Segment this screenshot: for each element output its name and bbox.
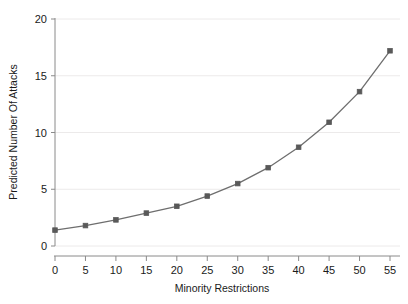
y-tick-group: 05101520	[35, 13, 55, 252]
series-line-group	[55, 51, 390, 230]
x-tick-label: 25	[201, 264, 213, 276]
y-axis-title: Predicted Number Of Attacks	[7, 64, 19, 199]
x-tick-label: 20	[171, 264, 183, 276]
x-tick-label: 30	[232, 264, 244, 276]
data-point-marker	[114, 218, 119, 223]
gridlines-group	[55, 19, 400, 246]
data-point-marker	[83, 223, 88, 228]
data-point-marker	[357, 89, 362, 94]
x-tick-label: 35	[262, 264, 274, 276]
y-tick-label: 10	[35, 127, 47, 139]
data-point-marker	[388, 48, 393, 53]
x-tick-label: 10	[110, 264, 122, 276]
y-tick-label: 0	[41, 240, 47, 252]
data-point-marker	[53, 228, 58, 233]
data-point-marker	[144, 211, 149, 216]
x-tick-label: 40	[293, 264, 305, 276]
x-tick-label: 45	[323, 264, 335, 276]
x-tick-label: 55	[384, 264, 396, 276]
data-point-marker	[296, 145, 301, 150]
axes-group	[54, 18, 400, 256]
data-point-marker	[235, 181, 240, 186]
data-point-marker	[327, 120, 332, 125]
x-tick-label: 15	[140, 264, 152, 276]
y-tick-label: 15	[35, 70, 47, 82]
data-point-marker	[175, 204, 180, 209]
x-tick-label: 5	[82, 264, 88, 276]
data-point-marker	[266, 165, 271, 170]
chart-figure: 0510152025303540455055 05101520 Minority…	[0, 0, 408, 304]
data-point-marker	[205, 194, 210, 199]
line-chart: 0510152025303540455055 05101520 Minority…	[0, 0, 408, 304]
y-tick-label: 20	[35, 13, 47, 25]
x-axis-title: Minority Restrictions	[175, 282, 270, 294]
x-tick-label: 0	[52, 264, 58, 276]
y-tick-label: 5	[41, 183, 47, 195]
series-line	[55, 51, 390, 230]
x-tick-group: 0510152025303540455055	[52, 256, 396, 276]
x-tick-label: 50	[353, 264, 365, 276]
